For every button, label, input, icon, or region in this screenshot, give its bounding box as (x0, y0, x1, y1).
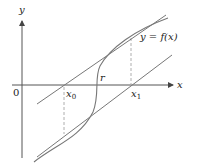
curve-label: y = f(x) (139, 31, 178, 42)
x0-label: x0 (66, 88, 76, 101)
root-label: r (100, 72, 106, 83)
tangent-line-upper (37, 15, 166, 104)
origin-label: 0 (13, 87, 19, 98)
tangent-line-lower (37, 55, 172, 157)
y-axis-label: y (18, 4, 25, 15)
x1-label: x1 (131, 88, 141, 101)
newton-method-diagram: y x 0 x0 x1 r y = f(x) (0, 0, 199, 164)
x-axis-label: x (177, 79, 183, 90)
